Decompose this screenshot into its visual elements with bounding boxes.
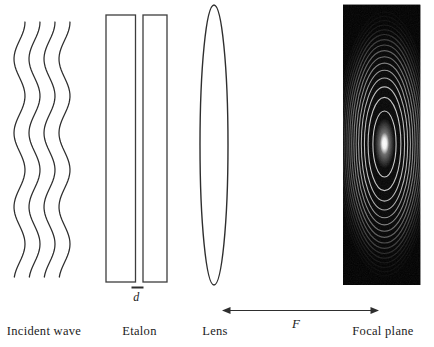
arrowhead-right-icon <box>371 307 380 314</box>
focal-length-label: F <box>292 317 300 330</box>
etalon-group <box>106 15 167 288</box>
incident-wavefront <box>14 22 25 277</box>
distance-arrow <box>222 307 379 314</box>
etalon-plate-left <box>106 15 136 282</box>
lens-ellipse <box>200 5 228 285</box>
plate-gap-label: d <box>133 291 139 303</box>
incident-wavefront <box>59 22 70 277</box>
fabry-perot-diagram: Incident wave Etalon Lens F Focal plane … <box>0 0 434 347</box>
etalon-label: Etalon <box>122 325 156 338</box>
diagram-canvas <box>0 0 434 347</box>
film-grain-texture <box>343 5 421 286</box>
incident-wavefront <box>29 22 40 277</box>
arrowhead-left-icon <box>222 307 231 314</box>
incident-wavefront <box>44 22 55 277</box>
incident-wave-label: Incident wave <box>7 325 81 338</box>
incident-wave-group <box>14 22 70 277</box>
lens-label: Lens <box>202 325 228 338</box>
focal-plane-label: Focal plane <box>352 325 413 338</box>
focal-plane-image <box>338 5 431 286</box>
etalon-plate-right <box>143 15 167 282</box>
